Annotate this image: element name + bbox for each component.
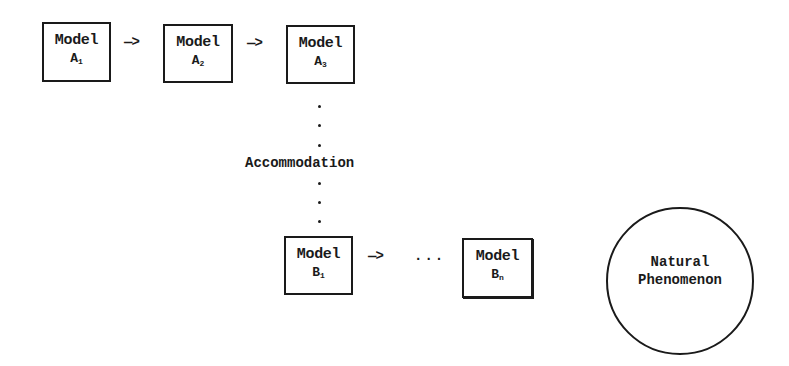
- model-b1-title: Model: [297, 247, 341, 263]
- vertical-dot: [318, 201, 321, 204]
- ellipsis: ...: [414, 248, 445, 264]
- model-a3-box: Model A3: [286, 25, 355, 84]
- model-a2-box: Model A2: [163, 24, 233, 83]
- vertical-dot: [318, 182, 321, 185]
- model-bn-box: Model Bn: [462, 238, 533, 298]
- accommodation-label: Accommodation: [245, 155, 354, 171]
- model-a1-box: Model A1: [42, 22, 111, 82]
- model-a1-title: Model: [55, 33, 99, 49]
- model-bn-title: Model: [476, 249, 520, 265]
- model-a2-title: Model: [176, 35, 220, 51]
- model-a1-label: A1: [70, 51, 83, 70]
- arrow-a1-a2: —>: [124, 34, 139, 50]
- model-a2-label: A2: [192, 53, 205, 72]
- arrow-a2-a3: —>: [247, 35, 262, 51]
- model-a3-title: Model: [299, 36, 343, 52]
- model-b1-label: B1: [312, 265, 325, 284]
- vertical-dot: [318, 105, 321, 108]
- phenomenon-line1: Natural: [606, 253, 754, 271]
- model-a3-label: A3: [314, 54, 327, 73]
- model-b1-box: Model B1: [284, 236, 353, 295]
- vertical-dot: [318, 124, 321, 127]
- arrow-b1-bn: —>: [368, 248, 383, 264]
- vertical-dot: [318, 144, 321, 147]
- phenomenon-line2: Phenomenon: [606, 271, 754, 289]
- model-bn-label: Bn: [491, 267, 504, 286]
- vertical-dot: [318, 220, 321, 223]
